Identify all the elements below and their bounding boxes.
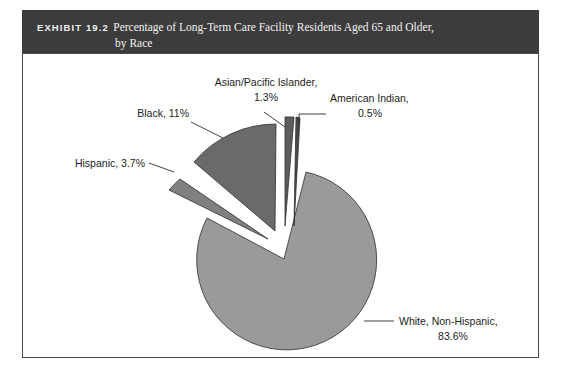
exhibit-header: EXHIBIT 19.2 Percentage of Long-Term Car… [22,10,539,53]
label-asian-pacific-islander: Asian/Pacific Islander, [215,76,318,88]
exhibit-container: EXHIBIT 19.2 Percentage of Long-Term Car… [22,10,539,358]
label-american-indian: American Indian, [330,92,409,104]
label-white-non-hispanic: White, Non-Hispanic, [399,315,498,327]
exhibit-title-line1: Percentage of Long-Term Care Facility Re… [113,21,434,33]
chart-plot-frame: Asian/Pacific Islander, 1.3% American In… [22,53,539,358]
label-black: Black, 11% [137,107,189,119]
pie-chart: Asian/Pacific Islander, 1.3% American In… [23,54,540,359]
exhibit-title-line2: by Race [115,36,531,51]
exhibit-header-inner: EXHIBIT 19.2 Percentage of Long-Term Car… [37,17,531,51]
label-asian-pacific-islander-value: 1.3% [254,91,278,103]
leader-line-black [191,122,223,138]
label-white-non-hispanic-value: 83.6% [438,330,468,342]
leader-line-hispanic [149,163,174,172]
label-american-indian-value: 0.5% [358,107,382,119]
exhibit-title: Percentage of Long-Term Care Facility Re… [37,21,531,51]
label-hispanic: Hispanic, 3.7% [75,157,145,169]
exhibit-number: EXHIBIT 19.2 [37,22,109,33]
pie-slice-black[interactable] [194,124,276,231]
leader-line-american-indian [299,114,326,124]
pie-slice-asian-pacific-islander[interactable] [285,117,294,226]
